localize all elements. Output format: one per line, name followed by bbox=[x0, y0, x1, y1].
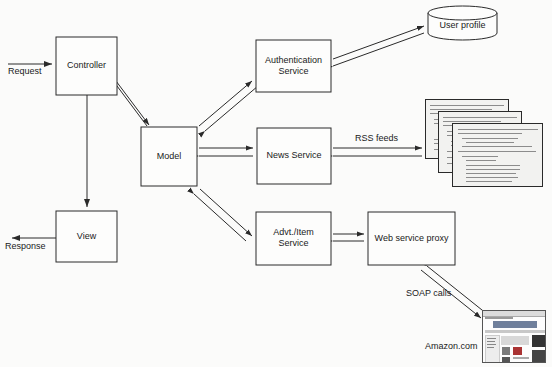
node-model bbox=[141, 127, 197, 186]
node-amazon-screenshot bbox=[482, 310, 546, 363]
node-news-service bbox=[257, 128, 331, 184]
architecture-diagram-canvas: Controller View Model Authentication Ser… bbox=[0, 0, 552, 367]
edge-label-amazon-com: Amazon.com bbox=[425, 341, 478, 352]
edge-model-news bbox=[199, 148, 253, 156]
edge-model-advt bbox=[194, 189, 252, 241]
node-view bbox=[56, 211, 117, 262]
node-advt-item-service bbox=[256, 212, 331, 265]
edge-news-rssfeeds bbox=[333, 148, 422, 156]
node-rss-feeds-documents bbox=[425, 99, 545, 187]
edge-auth-userprofile bbox=[333, 26, 424, 66]
node-controller bbox=[56, 37, 117, 95]
edge-label-request: Request bbox=[8, 66, 42, 77]
edge-label-response: Response bbox=[5, 241, 46, 252]
node-web-service-proxy bbox=[368, 212, 455, 265]
edge-advt-proxy bbox=[333, 234, 364, 241]
edge-label-soap-calls: SOAP calls bbox=[406, 288, 451, 299]
node-user-profile-cylinder bbox=[428, 6, 497, 40]
edge-controller-model bbox=[114, 81, 149, 126]
edge-label-rss-feeds: RSS feeds bbox=[355, 133, 398, 144]
node-authentication-service bbox=[256, 40, 331, 92]
edge-model-auth bbox=[199, 81, 258, 131]
rss-document-front bbox=[452, 123, 543, 187]
